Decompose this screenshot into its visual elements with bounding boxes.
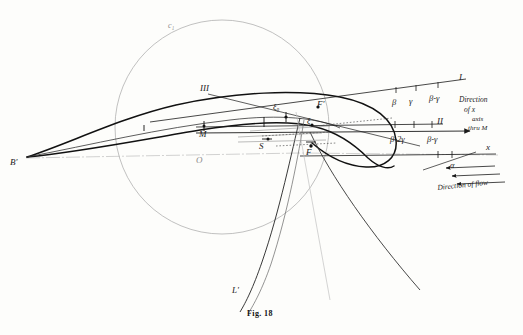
figure-canvas xyxy=(0,0,523,335)
point-label-B-prime: B' xyxy=(10,158,17,167)
line-III xyxy=(208,94,420,146)
line-label-I: I xyxy=(459,73,462,82)
curve-L-prime xyxy=(240,118,300,312)
point-label-M: M xyxy=(199,130,207,139)
point-label-F: F xyxy=(306,148,312,157)
angle-label-beta-minus-gamma: β-γ xyxy=(429,94,439,103)
figure-page: B' M O S F F' ξ ξ₀ c₁ L' I II III x β γ … xyxy=(0,0,523,335)
point-label-O: O xyxy=(196,156,203,165)
angle-label-gamma: γ xyxy=(409,97,412,106)
point-label-F-prime: F' xyxy=(317,100,324,109)
point-label-L-prime: L' xyxy=(232,286,239,295)
point-label-xi-0: ξ₀ xyxy=(273,104,279,112)
point-markers xyxy=(144,112,316,142)
annotation-direction-x-axis-line2: of x xyxy=(464,106,475,114)
point-label-xi: ξ xyxy=(307,118,310,126)
point-label-S: S xyxy=(259,142,264,151)
center-construction-lines xyxy=(238,126,330,142)
angle-label-beta: β xyxy=(392,98,396,107)
annotation-direction-x-axis-line4: thru M xyxy=(468,125,487,132)
line-label-III: III xyxy=(200,84,209,93)
baseline-horizontal xyxy=(26,153,498,158)
angle-label-beta-minus-gamma-2: β-γ xyxy=(427,135,437,144)
circle-label-c1: c₁ xyxy=(168,22,174,30)
line-label-II: II xyxy=(437,117,443,126)
figure-caption: Fig. 18 xyxy=(247,310,273,318)
angle-label-beta-minus-2gamma: β-2γ xyxy=(390,135,405,144)
annotation-direction-x-axis-line3: axis xyxy=(472,116,483,123)
angle-label-alpha: α xyxy=(450,161,454,170)
axis-label-x: x xyxy=(486,143,490,152)
annotation-direction-x-axis-line1: Direction xyxy=(459,96,487,104)
